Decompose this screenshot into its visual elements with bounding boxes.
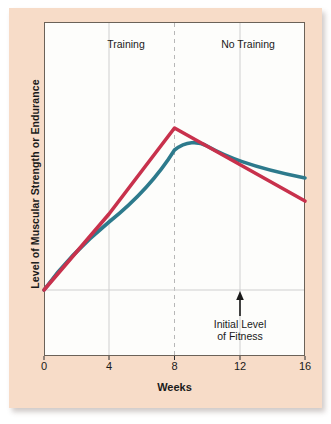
annotation-line-2: of Fitness (184, 330, 296, 342)
x-tick-label-8: 8 (160, 360, 190, 372)
x-tick-label-12: 12 (225, 360, 255, 372)
x-axis-title: Weeks (44, 381, 305, 394)
region-label-training: Training (74, 38, 178, 50)
x-tick-label-4: 4 (94, 360, 124, 372)
annotation-line-1: Initial Level (184, 318, 296, 330)
y-axis-title: Level of Muscular Strength or Endurance (29, 74, 41, 294)
plot-area (44, 22, 305, 356)
x-tick-label-0: 0 (29, 360, 59, 372)
annotation-initial-level-of-fitness: Initial Level of Fitness (184, 318, 296, 342)
chart-figure: Training No Training Level of Muscular S… (0, 0, 331, 424)
x-tick-label-16: 16 (290, 360, 320, 372)
region-label-no-training: No Training (192, 38, 304, 50)
